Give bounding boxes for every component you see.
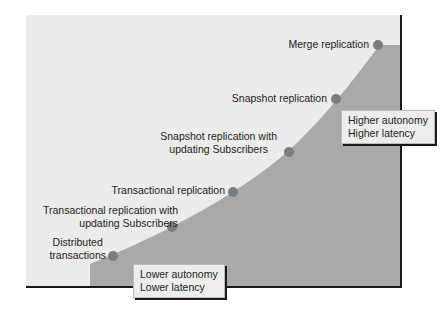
- label-line: Distributed: [49, 236, 106, 249]
- lower-autonomy-text: Lower autonomy: [140, 268, 218, 281]
- label-snapshot-replication: Snapshot replication: [232, 92, 327, 105]
- point-snapshot-updating: [284, 147, 294, 157]
- label-line: Transactional replication with: [43, 204, 178, 217]
- higher-autonomy-text: Higher autonomy: [348, 114, 428, 127]
- lower-autonomy-box: Lower autonomy Lower latency: [133, 264, 225, 298]
- label-line: transactions: [49, 249, 106, 262]
- label-line: updating Subscribers: [43, 217, 178, 230]
- label-line: Transactional replication: [112, 184, 225, 197]
- curve-fill-area: [90, 45, 401, 287]
- higher-autonomy-box: Higher autonomy Higher latency: [341, 110, 435, 144]
- label-merge-replication: Merge replication: [288, 38, 369, 51]
- label-snapshot-updating: Snapshot replication with updating Subsc…: [160, 130, 277, 156]
- point-snapshot-replication: [331, 94, 341, 104]
- lower-latency-text: Lower latency: [140, 281, 218, 294]
- label-transactional-replication: Transactional replication: [112, 184, 225, 197]
- point-merge-replication: [373, 40, 383, 50]
- label-line: updating Subscribers: [160, 143, 277, 156]
- label-transactional-updating: Transactional replication with updating …: [43, 204, 178, 230]
- label-line: Snapshot replication: [232, 92, 327, 105]
- point-distributed-transactions: [108, 251, 118, 261]
- higher-latency-text: Higher latency: [348, 127, 428, 140]
- label-line: Merge replication: [288, 38, 369, 51]
- label-distributed-transactions: Distributed transactions: [49, 236, 106, 262]
- label-line: Snapshot replication with: [160, 130, 277, 143]
- point-transactional-replication: [228, 187, 238, 197]
